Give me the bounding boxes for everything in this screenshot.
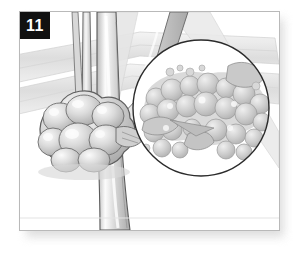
figure-number-badge: 11 [20,12,50,39]
nodule-cast-shadow [38,164,130,180]
illustration-canvas [20,12,279,230]
figure-illustration-root: 11 [0,0,299,256]
illustration-plate: 11 [19,11,280,231]
